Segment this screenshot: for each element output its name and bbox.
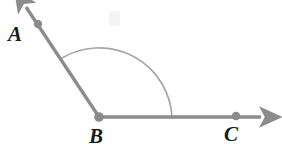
background-smudge-artifact xyxy=(109,11,120,26)
angle-figure-svg xyxy=(0,0,282,160)
geometry-angle-diagram: A B C xyxy=(0,0,282,160)
angle-arc xyxy=(62,48,172,117)
point-a-dot xyxy=(34,20,42,28)
point-label-c: C xyxy=(224,124,238,145)
point-label-b: B xyxy=(89,126,103,147)
point-label-a: A xyxy=(8,24,22,45)
point-b-vertex-dot xyxy=(94,112,104,122)
point-c-dot xyxy=(232,112,240,120)
